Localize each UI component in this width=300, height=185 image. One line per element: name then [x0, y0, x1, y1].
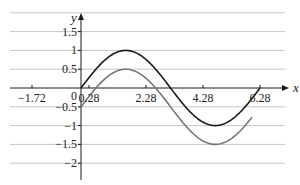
- y-tick-label: −2: [64, 156, 77, 170]
- x-tick-label: 0.28: [78, 91, 99, 105]
- x-tick-label: −1.72: [18, 91, 46, 105]
- y-tick-label: 0.5: [62, 62, 77, 76]
- origin-label: 0: [71, 89, 77, 103]
- y-tick-label: −1.5: [55, 137, 77, 151]
- x-axis-label: x: [292, 80, 299, 95]
- y-axis-label: y: [69, 10, 77, 25]
- y-tick-label: 1.5: [62, 25, 77, 39]
- y-axis-arrow-icon: [78, 13, 84, 20]
- x-tick-label: 4.28: [192, 91, 213, 105]
- tick-labels: xy−1.720.282.284.286.281.510.5−0.5−1−1.5…: [18, 10, 299, 170]
- x-tick-label: 2.28: [135, 91, 156, 105]
- x-tick-label: 6.28: [249, 91, 270, 105]
- x-axis-arrow-icon: [282, 85, 289, 91]
- curves: [81, 50, 260, 144]
- sine-chart: xy−1.720.282.284.286.281.510.5−0.5−1−1.5…: [0, 0, 300, 185]
- y-tick-label: −1: [64, 119, 77, 133]
- y-tick-label: 1: [71, 43, 77, 57]
